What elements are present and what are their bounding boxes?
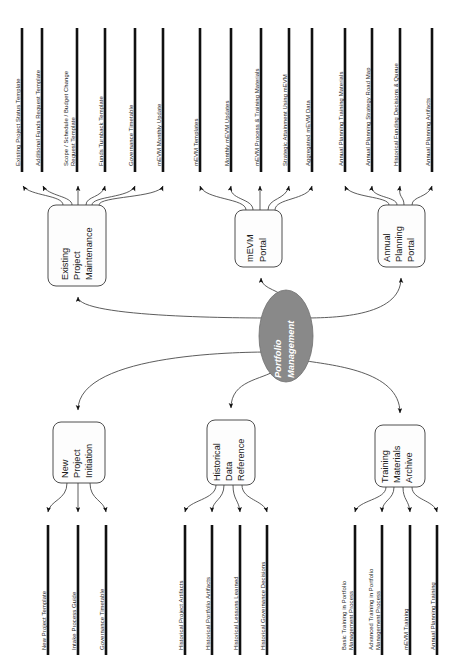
output-label: Basic Training in Portfolio [341,580,347,650]
node-mevm-portal[interactable]: mEVM Portal [235,210,282,267]
output-label: Historical Portfolio Artifacts [205,577,211,650]
output-label: mEVM Process & Training Materials [254,68,260,166]
node-label-line1: mEVM [245,234,255,262]
output-labels-historical-data-reference: Historical Project Artifacts Historical … [178,562,266,650]
node-label-line1: Training [380,450,390,483]
output-label: Funds Turnback Template [98,95,104,166]
node-label-line1: Existing [60,248,70,280]
node-label-line3: Archive [404,452,414,483]
output-bar-group-new-project-initiation [48,483,106,655]
output-label: Annual Planning Artifacts [425,98,431,166]
output-bar-group-historical-data-reference [185,485,267,655]
node-label-line3: Reference [236,439,246,481]
node-label-line3: Initiation [84,444,94,478]
output-label: Historical Funding Decisions & Queue [393,63,399,166]
node-label-line1: New [60,459,70,478]
output-label: Historical Governance Decisions [260,562,266,650]
output-label: Scope / Schedule / Budget Change [63,70,69,166]
output-label: Annual Planning Strategy Road Map [365,67,371,166]
output-label: Annual Planning Training [430,582,436,650]
node-label-line1: Annual [382,233,392,262]
output-label: Annual Planning Training Materials [338,72,344,166]
output-label: Governance Timetable [128,104,134,166]
output-label: New Project Template [41,590,47,650]
output-label: Request Template [70,116,76,166]
output-label: Additional Funds Request Template [35,69,41,166]
node-label-line2: Planning [394,226,404,262]
output-label: Historical Project Artifacts [178,580,184,650]
output-label: Advanced Training in Portfolio [368,568,374,650]
output-label: Intake Process Guide [71,591,77,650]
node-label-line2: Materials [392,445,402,483]
hub-label-line1: Portfolio [272,339,283,378]
output-bar-group-existing-project-maintenance [22,28,163,205]
node-training-materials-archive[interactable]: Training Materials Archive [375,425,425,487]
output-label: mEVM Templates [193,119,199,166]
node-historical-data-reference[interactable]: Historical Data Reference [207,420,255,485]
hub-portfolio-management[interactable]: Portfolio Management [259,290,313,382]
node-label-line3: Portal [406,238,416,262]
output-label: Existing Project Status Template [15,78,21,166]
output-label: Governance Timetable [99,588,105,650]
output-label: Historical Lessons Learned [233,576,239,650]
diagram-canvas: Existing Project Maintenance mEVM Portal… [0,0,459,661]
hub-connectors [78,278,401,413]
output-label: mEVM Monthly Update [156,103,162,166]
node-label-line2: Portal [258,238,268,262]
output-label: Management Process [348,591,354,650]
node-label-line2: Data [224,461,234,481]
node-label-line3: Maintenance [84,227,94,280]
node-existing-project-maintenance[interactable]: Existing Project Maintenance [48,205,106,286]
output-labels-existing-project-maintenance: Existing Project Status Template Additio… [15,69,162,166]
output-label: Strategic Attainment Using mEVM [282,74,288,166]
node-label-line2: Project [72,251,82,280]
node-annual-planning-portal[interactable]: Annual Planning Portal [378,205,425,267]
output-labels-annual-planning-portal: Annual Planning Training Materials Annua… [338,63,431,166]
node-new-project-initiation[interactable]: New Project Initiation [53,422,105,483]
node-label-line1: Historical [212,443,222,481]
node-label-line2: Project [72,449,82,478]
portfolio-management-diagram: Existing Project Maintenance mEVM Portal… [0,0,459,661]
output-label: Aggregated mEVM Data [305,100,311,166]
output-label: Monthly mEVM Updates [224,100,230,166]
output-labels-mevm-portal: mEVM Templates Monthly mEVM Updates mEVM… [193,68,311,166]
output-label: Management Process [375,591,381,650]
output-label: mEVM Training [403,608,409,650]
hub-label-line2: Management [285,320,296,378]
output-labels-new-project-initiation: New Project Template Intake Process Guid… [41,588,105,650]
output-bar-group-annual-planning-portal [345,28,432,205]
